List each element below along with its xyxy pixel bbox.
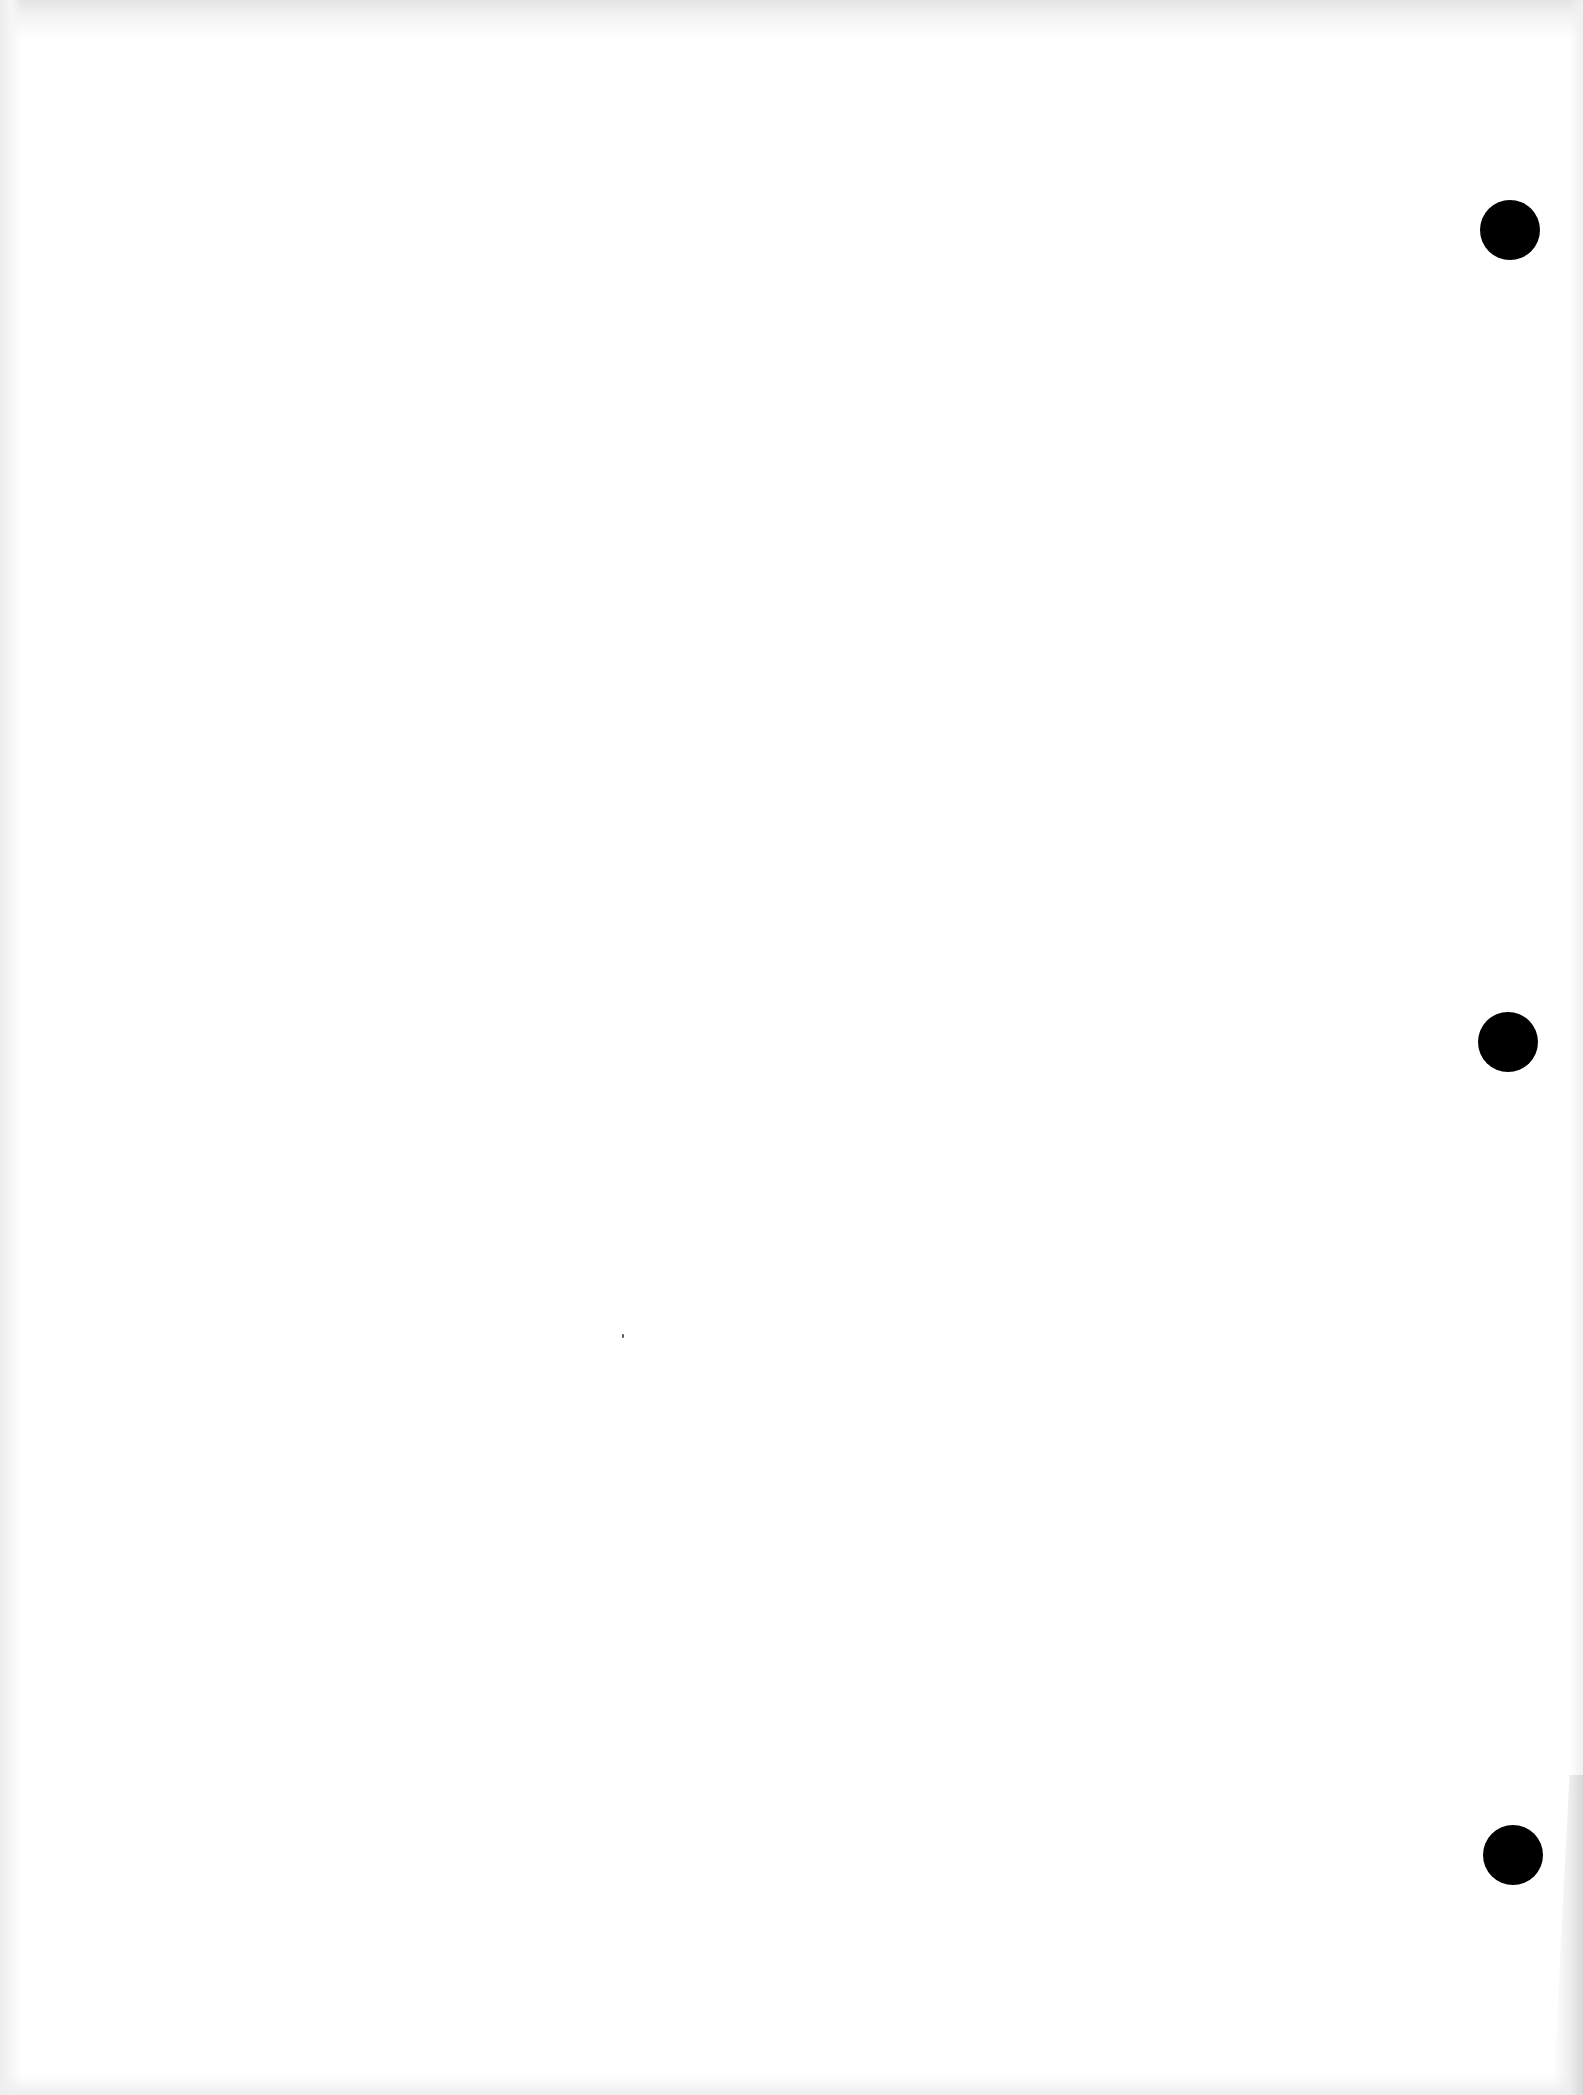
scan-speck [622, 1334, 624, 1338]
scan-edge-top [0, 0, 1583, 40]
scan-edge-bottom [0, 2075, 1583, 2095]
page-curl-shadow [1553, 1775, 1583, 2095]
scan-edge-left [0, 0, 22, 2095]
punch-hole-bottom [1483, 1825, 1543, 1885]
punch-hole-top [1480, 200, 1540, 260]
scanned-page [0, 0, 1583, 2095]
punch-hole-middle [1478, 1012, 1538, 1072]
